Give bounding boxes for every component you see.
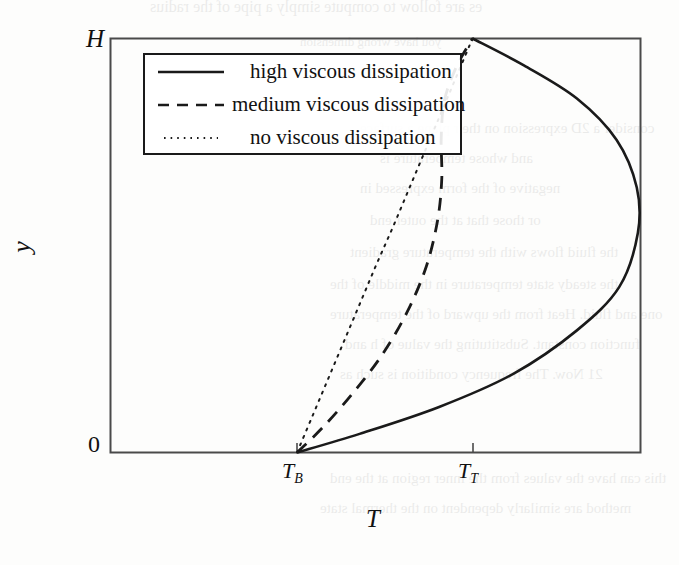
dotted-line-sample bbox=[154, 131, 228, 145]
x-axis-label: T bbox=[366, 505, 380, 533]
x-tick-label-TB-base: T bbox=[282, 458, 294, 483]
y-axis-label: y bbox=[7, 241, 37, 253]
legend-box: high viscous dissipation medium viscous … bbox=[143, 53, 462, 155]
legend-item-none: no viscous dissipation bbox=[145, 121, 460, 154]
x-tick-label-TB: TB bbox=[282, 458, 303, 487]
dashed-line-sample bbox=[154, 98, 228, 112]
legend-label-medium: medium viscous dissipation bbox=[228, 92, 465, 117]
x-tick-label-TT: TT bbox=[458, 458, 478, 487]
legend-item-high: high viscous dissipation bbox=[145, 55, 460, 88]
figure-container: es are follow to compute simply a pipe o… bbox=[0, 0, 679, 565]
solid-line-sample bbox=[154, 65, 228, 79]
y-axis-top-label: H bbox=[86, 25, 104, 53]
x-tick-label-TT-sub: T bbox=[470, 471, 478, 486]
y-axis-bottom-label: 0 bbox=[88, 431, 100, 458]
legend-item-medium: medium viscous dissipation bbox=[145, 88, 460, 121]
x-tick-label-TB-sub: B bbox=[294, 471, 303, 486]
legend-label-none: no viscous dissipation bbox=[228, 125, 436, 150]
legend-label-high: high viscous dissipation bbox=[228, 59, 452, 84]
x-tick-label-TT-base: T bbox=[458, 458, 470, 483]
